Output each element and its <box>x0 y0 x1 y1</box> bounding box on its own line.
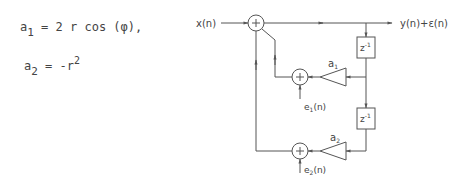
input-label: x(n) <box>196 18 216 29</box>
output-label: y(n)+ε(n) <box>400 18 448 29</box>
error-1-label: e1(n) <box>304 102 326 113</box>
amplifier-a2 <box>320 142 346 160</box>
amplifier-a1 <box>320 68 346 86</box>
delay-1-label: z-1 <box>360 41 371 53</box>
coef-a1-label: a1 <box>328 58 338 70</box>
error-2-label: e2(n) <box>304 165 326 176</box>
coef-a2-label: a2 <box>330 132 340 144</box>
delay-2-label: z-1 <box>360 112 371 124</box>
filter-block-diagram: x(n) y(n)+ε(n) z-1 z-1 a1 a2 e1(n) e2(n) <box>0 0 468 184</box>
